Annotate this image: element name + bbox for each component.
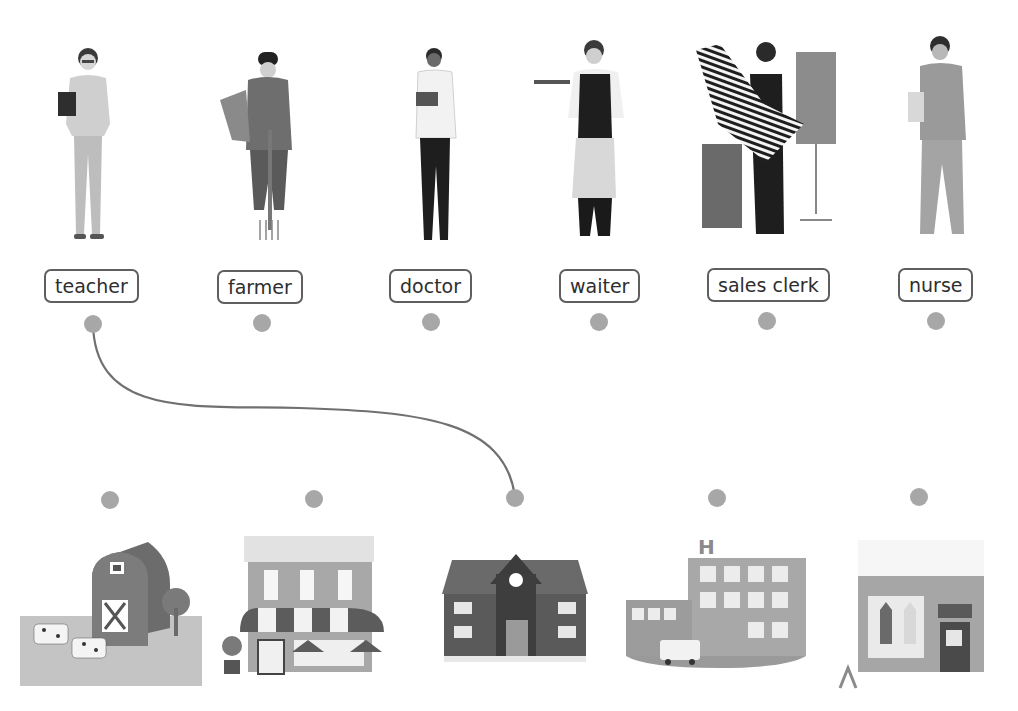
school-building-icon <box>440 554 590 664</box>
teacher-photo-icon <box>48 44 120 250</box>
nurse-photo-icon <box>906 34 972 244</box>
job-label-farmer[interactable]: farmer <box>217 270 303 304</box>
match-dot-farm[interactable] <box>101 491 119 509</box>
hospital-building-icon: H <box>626 534 810 670</box>
sales-clerk-photo-icon <box>686 34 832 240</box>
farm-barn-icon <box>20 538 202 688</box>
job-label-teacher[interactable]: teacher <box>44 269 139 303</box>
match-dot-nurse[interactable] <box>927 312 945 330</box>
match-dot-sales-clerk[interactable] <box>758 312 776 330</box>
job-label-waiter[interactable]: waiter <box>559 269 640 303</box>
match-dot-clothes-store[interactable] <box>910 488 928 506</box>
doctor-photo-icon <box>410 46 460 246</box>
match-dot-waiter[interactable] <box>590 313 608 331</box>
cafe-restaurant-icon <box>222 536 388 686</box>
job-label-sales-clerk[interactable]: sales clerk <box>707 268 830 302</box>
match-dot-school[interactable] <box>506 489 524 507</box>
job-label-doctor[interactable]: doctor <box>389 269 472 303</box>
match-dot-restaurant[interactable] <box>305 490 323 508</box>
match-dot-farmer[interactable] <box>253 314 271 332</box>
farmer-photo-icon <box>216 50 300 242</box>
waiter-photo-icon <box>532 38 632 242</box>
match-dot-hospital[interactable] <box>708 489 726 507</box>
svg-text:H: H <box>698 535 715 559</box>
match-dot-teacher[interactable] <box>84 315 102 333</box>
connection-teacher-school[interactable] <box>93 324 515 497</box>
clothing-store-icon <box>832 540 988 688</box>
job-label-nurse[interactable]: nurse <box>898 268 973 302</box>
match-dot-doctor[interactable] <box>422 313 440 331</box>
